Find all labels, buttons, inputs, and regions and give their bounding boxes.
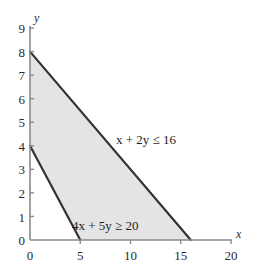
y-tick-label-4: 4 (19, 139, 26, 152)
x-tick-label-5: 5 (77, 249, 84, 262)
x-tick-label-10: 10 (124, 249, 137, 262)
x-tick-label-20: 20 (225, 249, 238, 262)
y-tick-label-7: 7 (19, 69, 26, 82)
annotation-upper-constraint: x + 2y ≤ 16 (116, 133, 176, 146)
y-tick-label-2: 2 (19, 186, 26, 199)
y-tick-label-6: 6 (19, 92, 26, 105)
y-tick-label-0: 0 (19, 234, 26, 247)
y-tick-label-5: 5 (19, 116, 26, 129)
x-tick-label-0: 0 (27, 249, 34, 262)
y-tick-label-9: 9 (19, 22, 26, 35)
y-tick-label-3: 3 (19, 163, 26, 176)
annotation-lower-constraint: 4x + 5y ≥ 20 (72, 219, 138, 232)
chart-figure: y x 9 8 7 6 5 4 3 2 1 0 0 5 10 15 20 x +… (0, 0, 257, 270)
y-tick-label-8: 8 (19, 45, 26, 58)
x-tick-label-15: 15 (174, 249, 187, 262)
y-tick-label-1: 1 (19, 210, 26, 223)
x-axis-title: x (236, 228, 241, 240)
y-axis-title: y (34, 12, 39, 24)
